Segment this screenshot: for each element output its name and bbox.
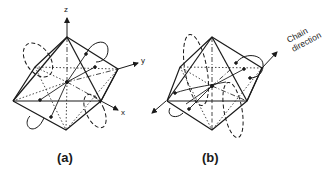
panel-a-label: (a) <box>57 150 73 165</box>
y-axis-arrow <box>118 63 138 69</box>
octahedra-diagram <box>0 0 334 173</box>
chain-direction-back-arrow <box>152 101 166 113</box>
z-axis-label: z <box>64 5 68 14</box>
y-axis-label: y <box>141 56 145 65</box>
x-axis-label: x <box>121 108 125 117</box>
chain-direction-arrow <box>262 52 277 68</box>
panel-b-label: (b) <box>202 150 219 165</box>
octahedron-b <box>152 33 277 140</box>
octahedron-a <box>13 18 138 131</box>
